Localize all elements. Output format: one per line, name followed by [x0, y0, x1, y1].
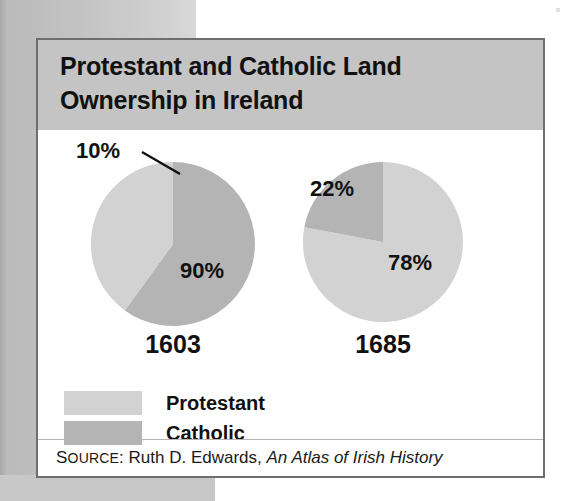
year-label-1603: 1603	[68, 330, 278, 359]
slice-label-1603-protestant: 10%	[76, 138, 120, 164]
legend-label-catholic: Catholic	[166, 422, 245, 445]
source-citation: SOURCE: Ruth D. Edwards, An Atlas of Iri…	[56, 448, 443, 468]
source-work-title: An Atlas of Irish History	[267, 448, 443, 467]
legend-swatch-protestant	[64, 391, 142, 415]
year-label-1685: 1685	[278, 330, 488, 359]
pie-svg-1603	[87, 158, 259, 330]
pie-chart-1685: 22% 78% 1685	[278, 130, 488, 390]
scan-speck	[556, 8, 560, 12]
scanned-page: Protestant and Catholic Land Ownership i…	[0, 0, 569, 501]
page-title: Protestant and Catholic Land Ownership i…	[60, 49, 490, 117]
pie-chart-area: 10% 90% 1603 22% 78% 1685	[38, 130, 543, 390]
page-left-edge	[0, 0, 8, 501]
legend-item-catholic: Catholic	[64, 418, 364, 448]
source-divider	[38, 439, 543, 440]
slice-label-1685-catholic: 22%	[310, 176, 354, 202]
pie-chart-1603: 10% 90% 1603	[68, 130, 278, 390]
legend-swatch-catholic	[64, 421, 142, 445]
page-bottom-margin	[0, 475, 215, 501]
legend-label-protestant: Protestant	[166, 392, 265, 415]
figure-card: Protestant and Catholic Land Ownership i…	[36, 38, 545, 478]
source-label-cap: S	[56, 448, 68, 467]
source-label-rest: OURCE	[68, 450, 120, 466]
slice-label-1685-protestant: 78%	[388, 250, 432, 276]
source-author: Ruth D. Edwards,	[129, 448, 267, 467]
slice-label-1603-catholic: 90%	[180, 258, 224, 284]
source-colon: :	[119, 448, 128, 467]
legend-item-protestant: Protestant	[64, 388, 364, 418]
source-label: SOURCE	[56, 450, 119, 466]
leader-line-1603	[140, 148, 186, 178]
